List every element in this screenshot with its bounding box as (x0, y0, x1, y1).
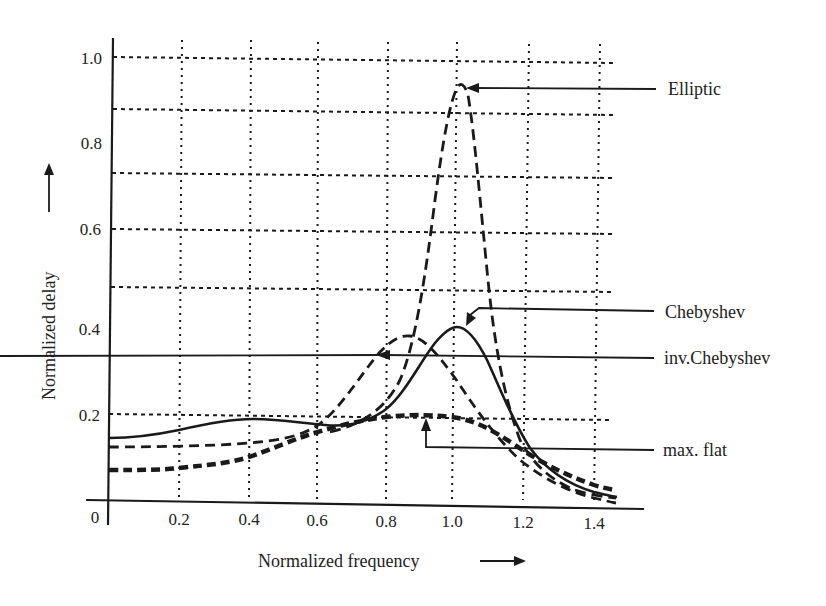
x-tick-label: 1.2 (512, 513, 533, 532)
y-axis-title: Normalized delay (39, 272, 59, 400)
chebyshev-leader-line (470, 308, 654, 315)
series-max-flat (109, 415, 615, 490)
x-axis-arrowhead-icon (514, 556, 526, 566)
x-tick-label: 0.8 (375, 512, 396, 531)
x-tick-label: 0.6 (306, 511, 327, 530)
legend-label-elliptic: Elliptic (668, 79, 721, 99)
x-axis-title: Normalized frequency (258, 551, 419, 571)
y-tick-label: 1.0 (81, 49, 102, 68)
origin-label: 0 (91, 508, 100, 527)
y-tick-label: 0.2 (79, 406, 100, 425)
series-chebyshev (109, 327, 617, 497)
curves (109, 84, 617, 503)
legend-label-chebyshev: Chebyshev (665, 302, 745, 322)
y-tick-label: 0.6 (80, 220, 101, 239)
grid-vertical (179, 40, 600, 500)
x-axis (86, 500, 644, 509)
x-axis-title-group: Normalized frequency (258, 551, 526, 571)
y-axis-title-group: Normalized delay (39, 163, 59, 400)
y-tick-labels: 1.0 0.8 0.6 0.4 0.2 (79, 49, 102, 425)
y-axis (108, 38, 113, 525)
grid-horizontal (109, 57, 615, 420)
axes (86, 38, 644, 525)
elliptic-arrowhead-icon (466, 83, 479, 93)
x-tick-label: 0.4 (238, 510, 260, 529)
x-tick-label: 0.2 (168, 510, 189, 529)
y-tick-label: 0.8 (81, 134, 102, 153)
legend: Elliptic Chebyshev inv.Chebyshev max. fl… (663, 79, 770, 460)
x-tick-label: 1.0 (441, 512, 462, 531)
y-tick-label: 0.4 (79, 320, 101, 339)
chart: 1.0 0.8 0.6 0.4 0.2 0 0.2 0.4 0.6 0.8 1.… (0, 0, 826, 606)
chart-canvas: 1.0 0.8 0.6 0.4 0.2 0 0.2 0.4 0.6 0.8 1.… (0, 0, 826, 606)
legend-label-max-flat: max. flat (663, 440, 727, 460)
elliptic-leader-line (472, 88, 656, 89)
legend-label-inv-chebyshev: inv.Chebyshev (664, 348, 770, 368)
max-flat-leader-line (426, 426, 654, 450)
x-tick-labels: 0 0.2 0.4 0.6 0.8 1.0 1.2 1.4 (91, 508, 605, 533)
x-tick-label: 1.4 (583, 514, 605, 533)
inv-chebyshev-arrowhead-icon (376, 350, 390, 360)
y-axis-arrowhead-icon (44, 163, 54, 175)
max-flat-arrowhead-icon (421, 418, 431, 431)
inv-chebyshev-leader-line (0, 355, 384, 356)
